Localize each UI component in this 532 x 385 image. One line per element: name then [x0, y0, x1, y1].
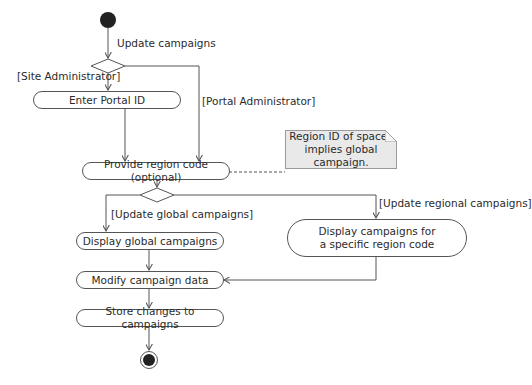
initial-node — [100, 12, 116, 28]
guard-portal-administrator: [Portal Administrator] — [202, 95, 315, 107]
activity-label: Display global campaigns — [83, 235, 218, 248]
activity-display-global-campaigns: Display global campaigns — [76, 232, 224, 250]
flow-label-update-campaigns: Update campaigns — [117, 37, 216, 49]
activity-modify-campaign-data: Modify campaign data — [76, 271, 224, 289]
activity-label: Modify campaign data — [92, 274, 209, 287]
guard-site-administrator: [Site Administrator] — [17, 70, 120, 82]
activity-display-regional-campaigns: Display campaigns for a specific region … — [287, 219, 467, 257]
activity-enter-portal-id: Enter Portal ID — [33, 91, 181, 109]
guard-update-regional: [Update regional campaigns] — [379, 197, 532, 209]
guard-update-global: [Update global campaigns] — [111, 208, 253, 220]
note-line1: Region ID of spaces — [289, 130, 393, 143]
activity-label: Enter Portal ID — [69, 94, 145, 107]
note-line2: implies global campaign. — [286, 143, 396, 169]
activity-label: Store changes to campaigns — [77, 305, 223, 331]
decision-node-campaign-scope — [140, 188, 174, 202]
activity-store-changes: Store changes to campaigns — [76, 309, 224, 327]
activity-provide-region-code: Provide region code (optional) — [82, 162, 230, 180]
activity-label-line2: a specific region code — [320, 238, 435, 251]
note-fold-icon — [385, 130, 397, 142]
activity-label-line1: Display campaigns for — [318, 225, 435, 238]
activity-label: Provide region code (optional) — [83, 158, 229, 184]
note-region-id: Region ID of spaces implies global campa… — [285, 130, 397, 169]
